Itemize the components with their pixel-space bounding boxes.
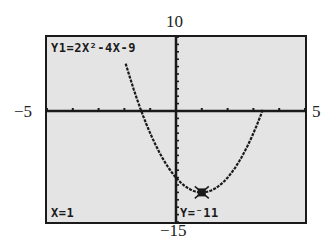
ymin-label: −15 (160, 222, 187, 239)
parabola-curve (126, 64, 263, 193)
calculator-screen: Y1=2X²-4X-9 X=1 Y=⁻11 (45, 35, 307, 224)
ymax-label: 10 (166, 13, 183, 30)
graph-plot (47, 37, 305, 222)
xmin-label: −5 (14, 103, 32, 120)
y-coordinate-readout: Y=⁻11 (180, 207, 219, 219)
xmax-label: 5 (312, 103, 321, 120)
x-coordinate-readout: X=1 (51, 207, 74, 219)
function-label: Y1=2X²-4X-9 (51, 42, 136, 54)
